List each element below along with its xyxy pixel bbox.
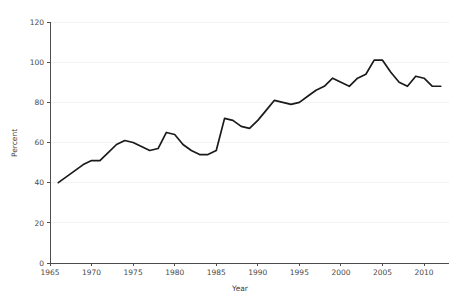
x-tick-label: 2005: [373, 268, 392, 277]
x-tick-label: 1975: [124, 268, 143, 277]
x-tick-label: 1990: [248, 268, 267, 277]
x-axis: [50, 263, 449, 266]
x-tick-label: 2000: [331, 268, 350, 277]
chart-container: 020406080100120 196519701975198019851990…: [0, 0, 461, 298]
y-axis-title: Percent: [10, 129, 19, 157]
y-tick-label: 100: [30, 58, 45, 67]
y-tick-label: 60: [34, 138, 44, 147]
x-tick-label: 1995: [290, 268, 309, 277]
y-tick-label: 20: [34, 219, 44, 228]
y-axis: [47, 22, 50, 263]
y-tick-label: 120: [30, 18, 45, 27]
x-tick-label: 1985: [207, 268, 226, 277]
gridlines: [50, 22, 449, 223]
y-tick-label: 0: [39, 259, 44, 268]
line-chart: 020406080100120 196519701975198019851990…: [0, 0, 461, 298]
y-tick-label: 40: [34, 178, 44, 187]
x-tick-label: 1970: [82, 268, 101, 277]
y-tick-labels: 020406080100120: [30, 18, 45, 268]
data-series-percent: [58, 60, 440, 183]
y-tick-label: 80: [34, 98, 44, 107]
x-tick-label: 2010: [415, 268, 434, 277]
x-axis-title: Year: [231, 284, 249, 293]
x-tick-label: 1965: [40, 268, 59, 277]
x-tick-labels: 1965197019751980198519901995200020052010: [40, 268, 433, 277]
x-tick-label: 1980: [165, 268, 184, 277]
